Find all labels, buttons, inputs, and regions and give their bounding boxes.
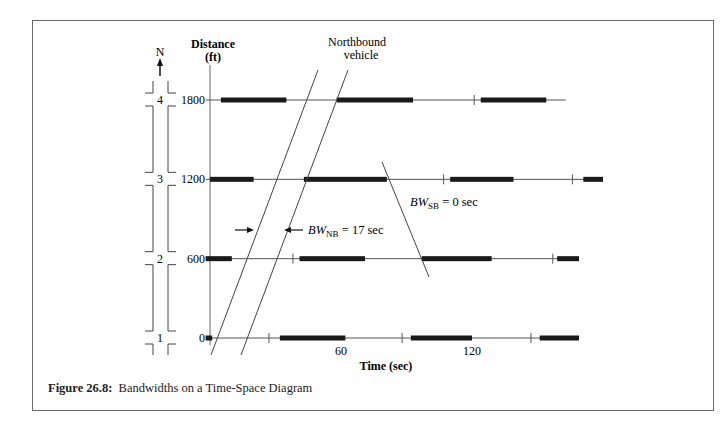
bw-sb-label: BWSB = 0 sec — [410, 195, 478, 211]
red-phase-bar — [210, 177, 254, 182]
arrow-right-icon — [247, 227, 254, 233]
red-phase-bar — [557, 256, 579, 261]
y-tick-label: 1800 — [181, 93, 205, 107]
intersection-number-4: 4 — [157, 93, 163, 107]
northbound-label-line1: Northbound — [328, 35, 386, 49]
red-phase-bar — [337, 98, 413, 103]
compass-label: N — [156, 45, 165, 59]
time-space-diagram: 1234 N Distance (ft) 060012001800 60 120… — [0, 0, 726, 429]
bw-nb-label: BWNB = 17 sec — [308, 223, 384, 239]
northbound-label-line2: vehicle — [344, 48, 379, 62]
signal-row-4 — [206, 95, 566, 105]
north-arrow-icon — [157, 58, 163, 76]
red-phase-bar — [206, 256, 232, 261]
y-tick-label: 600 — [187, 252, 205, 266]
red-phase-bar — [540, 336, 579, 341]
y-axis-title: Distance — [191, 37, 236, 51]
red-phase-bar — [206, 336, 213, 341]
northbound-band-left-edge — [211, 70, 318, 355]
signal-row-3 — [206, 174, 603, 184]
y-axis-unit: (ft) — [205, 50, 221, 64]
intersection-number-3: 3 — [157, 172, 163, 186]
red-phase-bar — [221, 98, 287, 103]
intersection-labels: 1234 — [157, 93, 163, 345]
caption-text: Bandwidths on a Time-Space Diagram — [119, 381, 313, 395]
y-tick-label: 1200 — [181, 172, 205, 186]
red-phase-bar — [300, 256, 366, 261]
red-phase-bar — [583, 177, 603, 182]
signal-row-1 — [206, 333, 579, 343]
y-tick-labels: 060012001800 — [181, 93, 205, 345]
arterial-road — [145, 81, 176, 355]
red-phase-bar — [280, 336, 346, 341]
intersection-number-2: 2 — [157, 252, 163, 266]
x-tick-120: 120 — [463, 344, 481, 358]
red-phase-bar — [450, 177, 513, 182]
figure-caption: Figure 26.8: Bandwidths on a Time-Space … — [48, 381, 312, 396]
red-phase-bar — [304, 177, 387, 182]
y-tick-label: 0 — [199, 331, 205, 345]
x-axis-title: Time (sec) — [360, 359, 413, 373]
intersection-number-1: 1 — [157, 331, 163, 345]
northbound-band-right-edge — [241, 70, 348, 355]
signal-timing-rows — [206, 95, 603, 343]
bandwidth-nb-arrows — [235, 227, 303, 233]
x-tick-60: 60 — [335, 344, 347, 358]
caption-label: Figure 26.8: — [48, 381, 112, 395]
signal-row-2 — [206, 254, 579, 264]
red-phase-bar — [411, 336, 472, 341]
red-phase-bar — [481, 98, 547, 103]
red-phase-bar — [422, 256, 492, 261]
